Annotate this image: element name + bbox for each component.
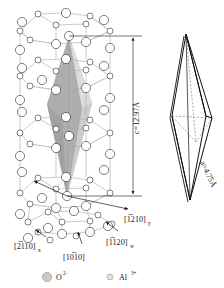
direction-label-1210-text: [1210] [124, 215, 146, 224]
legend-oxygen-marker [42, 272, 51, 281]
direction-label-1010: [1010] [63, 253, 85, 262]
crystal-structure-figure: c=12.97Å a=4.75Å [1210] [0, 0, 224, 288]
legend-oxygen-label: O [56, 273, 62, 282]
legend-aluminum-label: Al [119, 273, 128, 282]
legend-oxygen-charge: 2− [63, 270, 69, 276]
direction-label-2110-text: [2110] [14, 242, 36, 251]
direction-label-2110-sub: x [38, 247, 41, 253]
direction-label-1010-text: [1010] [63, 253, 85, 262]
direction-label-1120-sub: w [130, 243, 134, 249]
direction-label-1120-text: [1120] [106, 238, 128, 247]
direction-label-1210-sub: y [148, 220, 151, 226]
legend-aluminum-marker [107, 274, 113, 280]
legend-aluminum-charge: 3+ [131, 270, 137, 276]
c-axis-dimension-label: c=12.97Å [132, 102, 141, 134]
